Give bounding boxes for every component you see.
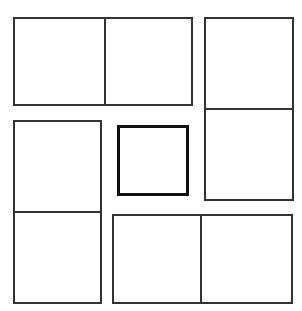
bottom-block-divider — [200, 216, 202, 302]
right-block-divider — [206, 108, 292, 110]
center-square — [117, 125, 189, 196]
left-block-divider — [15, 211, 100, 213]
bottom-block — [112, 214, 293, 304]
top-block — [13, 17, 193, 106]
right-block — [204, 17, 294, 201]
left-block — [13, 120, 102, 304]
top-block-divider — [104, 19, 106, 104]
